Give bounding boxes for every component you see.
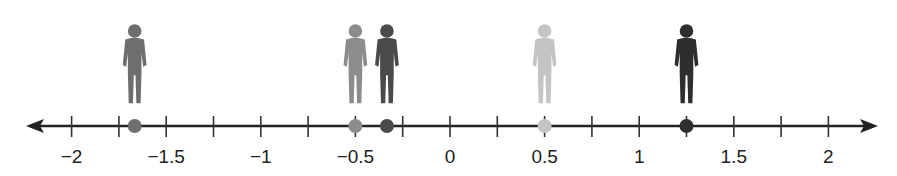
person-figure-girl-long-hair-icon [123, 24, 147, 103]
point-dot [680, 119, 694, 133]
tick-label: −0.5 [337, 146, 375, 168]
tick-label: 2 [823, 146, 834, 168]
tick-label: 1.5 [721, 146, 747, 168]
tick-label: −2 [61, 146, 83, 168]
person-figure-boy-hands-on-hips-icon [375, 24, 399, 103]
figures-group [123, 24, 699, 103]
tick-label: 0.5 [531, 146, 557, 168]
person-figure-boy-shorts-icon [675, 24, 699, 103]
tick-label: 0 [445, 146, 456, 168]
tick-label: −1.5 [147, 146, 185, 168]
person-figure-girl-arms-crossed-icon [533, 24, 557, 103]
tick-label: 1 [634, 146, 645, 168]
number-line-diagram: −2−1.5−1−0.500.511.52 [0, 0, 897, 176]
point-dot [380, 119, 394, 133]
point-dot [538, 119, 552, 133]
person-figure-boy-standing-icon [344, 24, 368, 103]
point-dot [128, 119, 142, 133]
point-dot [348, 119, 362, 133]
tick-label: −1 [250, 146, 272, 168]
